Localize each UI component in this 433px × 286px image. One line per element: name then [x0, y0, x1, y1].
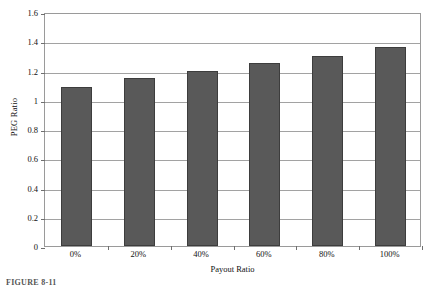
plot-area	[44, 13, 421, 247]
x-tick-label: 20%	[107, 250, 170, 259]
y-tick-label: 1.2	[27, 68, 38, 77]
x-tick-label: 80%	[295, 250, 358, 259]
y-tick-label: 1.6	[27, 9, 38, 18]
y-tick-label: 0.6	[27, 155, 38, 164]
bar	[312, 56, 343, 246]
x-tick-mark	[422, 246, 423, 250]
y-tick-label: 1.4	[27, 38, 38, 47]
x-tick-label: 0%	[44, 250, 107, 259]
x-tick-label: 100%	[358, 250, 421, 259]
y-axis-tick-labels: 1.61.41.210.80.60.40.20	[0, 0, 42, 286]
bar-series	[45, 14, 420, 246]
y-tick-label: 0.8	[27, 126, 38, 135]
bar	[61, 87, 92, 246]
bar	[375, 47, 406, 246]
x-axis-title: Payout Ratio	[44, 264, 421, 274]
bar	[187, 71, 218, 247]
x-tick-label: 40%	[170, 250, 233, 259]
figure-container: PEG Ratio 1.61.41.210.80.60.40.20 0%20%4…	[0, 0, 433, 286]
y-tick-label: 1	[34, 97, 38, 106]
y-tick-mark	[41, 248, 45, 249]
bar	[249, 63, 280, 246]
figure-caption: FIGURE 8-11	[6, 278, 57, 286]
y-tick-label: 0	[34, 243, 38, 252]
x-axis-tick-labels: 0%20%40%60%80%100%	[44, 250, 421, 264]
y-tick-label: 0.2	[27, 214, 38, 223]
bar	[124, 78, 155, 246]
y-tick-label: 0.4	[27, 185, 38, 194]
x-tick-label: 60%	[233, 250, 296, 259]
